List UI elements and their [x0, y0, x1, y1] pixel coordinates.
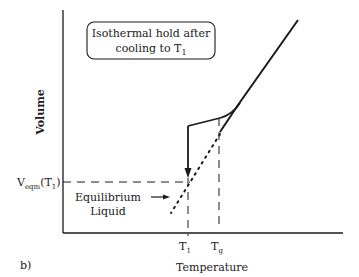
- annotation-line-1: Isothermal hold after: [92, 27, 211, 40]
- volume-temperature-diagram: Isothermal hold after cooling to T1 Volu…: [0, 0, 359, 277]
- equilibrium-label-line-2: Liquid: [90, 205, 126, 218]
- annotation-line-2: cooling to T1: [115, 42, 186, 57]
- right-arrow-icon: [163, 195, 170, 200]
- x-axis-label: Temperature: [176, 261, 248, 274]
- veqm-label: Veqm(T1): [16, 176, 61, 191]
- tick-label-t1: T1: [179, 240, 191, 255]
- panel-label: b): [20, 259, 31, 272]
- down-arrow-icon: [185, 168, 192, 178]
- equilibrium-liquid-dotted: [171, 134, 220, 213]
- tick-label-tg: Tg: [211, 240, 223, 255]
- liquid-line: [220, 20, 298, 132]
- equilibrium-label-line-1: Equilibrium: [75, 191, 142, 204]
- y-axis-label: Volume: [34, 89, 47, 136]
